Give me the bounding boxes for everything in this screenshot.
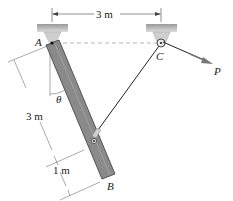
label-p: P [213,65,221,77]
length-pin-b-label: 1 m [53,164,70,176]
label-a: A [34,36,42,48]
span-ac-label: 3 m [96,8,113,20]
mechanics-diagram: 3 m θ A C P B [0,0,233,201]
cable [98,46,159,130]
force-p-arrow [163,42,213,64]
dimension-span-ac: 3 m [52,8,161,22]
theta-label: θ [56,93,62,105]
length-a-pin-label: 3 m [26,110,43,122]
bar-ab [46,40,115,179]
pulley-c [157,39,165,47]
label-c: C [156,50,164,62]
pin-a [50,41,53,44]
label-b: B [107,180,114,192]
